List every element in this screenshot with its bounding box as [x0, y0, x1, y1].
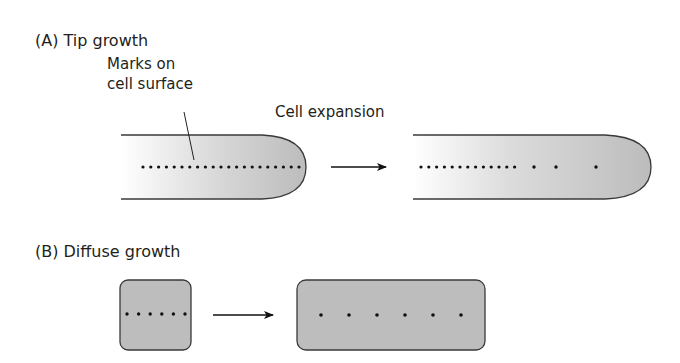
- tip-cell-before: [121, 135, 306, 199]
- growth-diagram: [0, 0, 680, 363]
- tip-cell-after: [413, 135, 651, 199]
- diffuse-cell-after: [297, 280, 485, 350]
- surface-marks-dense: [141, 165, 300, 168]
- diffuse-cell-before: [120, 280, 191, 350]
